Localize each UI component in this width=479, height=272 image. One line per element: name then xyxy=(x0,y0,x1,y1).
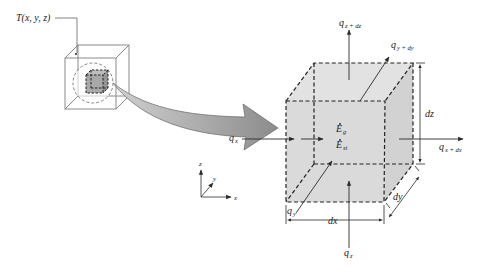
temperature-label: T(x, y, z) xyxy=(16,12,51,24)
svg-text:x: x xyxy=(234,137,238,144)
svg-text:z + dz: z + dz xyxy=(344,22,361,29)
magnify-arrow xyxy=(113,83,278,150)
svg-text:q: q xyxy=(344,247,349,258)
small-wireframe-cube: T(x, y, z) xyxy=(16,12,129,109)
svg-text:q: q xyxy=(439,141,444,152)
inner-element-cube xyxy=(86,70,108,93)
svg-text:y + dy: y + dy xyxy=(396,44,414,51)
svg-text:y: y xyxy=(292,210,296,217)
control-volume-cube xyxy=(286,63,413,202)
label-qz: q z xyxy=(344,247,353,259)
svg-text:E: E xyxy=(335,139,342,150)
svg-text:z: z xyxy=(349,252,353,259)
svg-text:q: q xyxy=(229,132,234,143)
svg-text:E: E xyxy=(335,123,342,134)
svg-text:q: q xyxy=(339,17,344,28)
svg-text:x + dx: x + dx xyxy=(444,146,462,153)
svg-text:st: st xyxy=(343,144,348,151)
label-dx: dx xyxy=(328,215,338,226)
label-qy: q y xyxy=(287,205,296,217)
label-qz-dz: q z + dz xyxy=(339,17,361,29)
label-qy-dy: q y + dy xyxy=(391,39,414,51)
svg-text:q: q xyxy=(287,205,292,216)
axis-y-label: y xyxy=(212,175,217,183)
temperature-leader-line xyxy=(55,18,77,53)
temperature-point xyxy=(75,53,77,55)
label-dz: dz xyxy=(425,108,434,119)
control-volume-diagram: T(x, y, z) z y x xyxy=(0,0,479,272)
svg-text:q: q xyxy=(391,39,396,50)
axis-z-label: z xyxy=(198,160,202,168)
label-qx-dx: q x + dx xyxy=(439,141,462,153)
axis-x-label: x xyxy=(233,194,238,202)
label-dy: dy xyxy=(393,191,403,202)
